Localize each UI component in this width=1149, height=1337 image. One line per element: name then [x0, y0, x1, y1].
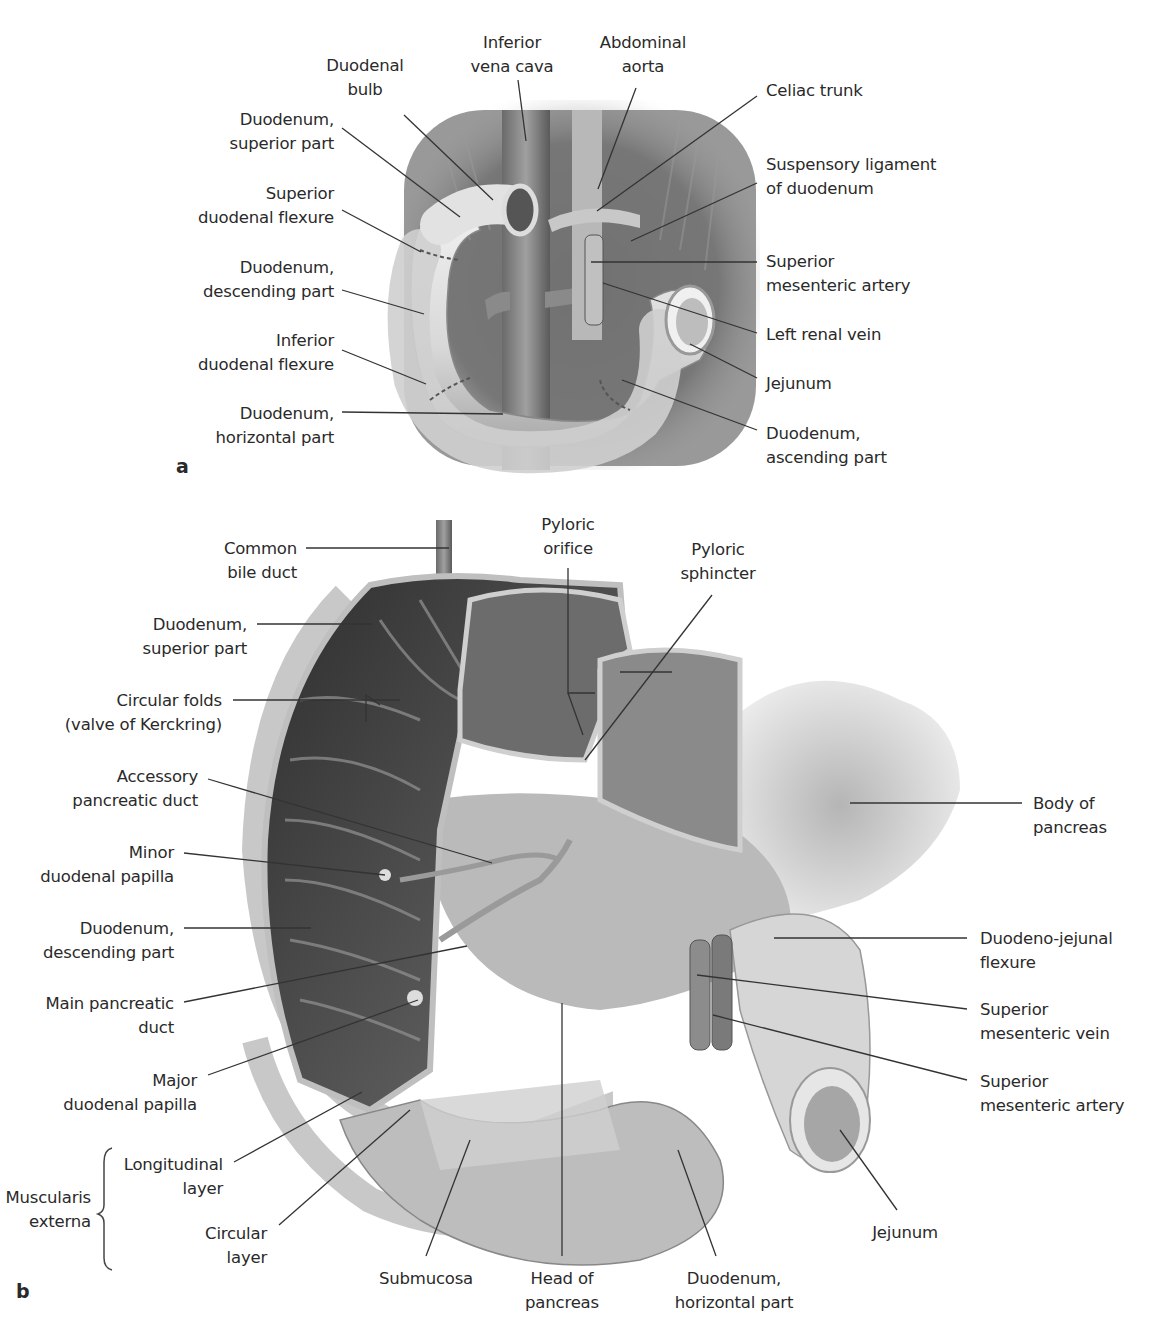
label-b-muscularis-externa: Muscularis externa — [6, 1186, 91, 1234]
label-b-duodenojejunal-flexure: Duodeno-jejunal flexure — [980, 927, 1113, 975]
label-b-common-bile-duct: Common bile duct — [224, 537, 297, 585]
label-a-left-renal-vein: Left renal vein — [766, 323, 881, 347]
label-b-jejunum: Jejunum — [850, 1221, 960, 1245]
label-b-pyloric-orifice: Pyloric orifice — [527, 513, 609, 561]
muscularis-brace — [98, 1148, 112, 1270]
label-b-duodenum-descending: Duodenum, descending part — [43, 917, 174, 965]
label-b-circular-layer: Circular layer — [205, 1222, 267, 1270]
label-b-minor-duodenal-papilla: Minor duodenal papilla — [40, 841, 174, 889]
label-b-major-duodenal-papilla: Major duodenal papilla — [63, 1069, 197, 1117]
label-a-celiac-trunk: Celiac trunk — [766, 79, 863, 103]
label-b-superior-mesenteric-vein: Superior mesenteric vein — [980, 998, 1110, 1046]
label-a-abdominal-aorta: Abdominal aorta — [578, 31, 708, 79]
label-a-suspensory-ligament: Suspensory ligament of duodenum — [766, 153, 936, 201]
label-a-duodenal-bulb: Duodenal bulb — [305, 54, 425, 102]
label-b-body-of-pancreas: Body of pancreas — [1033, 792, 1107, 840]
label-b-submucosa: Submucosa — [366, 1267, 486, 1291]
label-b-longitudinal-layer: Longitudinal layer — [124, 1153, 223, 1201]
label-b-duodenum-superior: Duodenum, superior part — [143, 613, 247, 661]
label-a-duodenum-descending: Duodenum, descending part — [203, 256, 334, 304]
label-b-pyloric-sphincter: Pyloric sphincter — [668, 538, 768, 586]
label-a-superior-mesenteric-artery: Superior mesenteric artery — [766, 250, 910, 298]
label-a-duodenum-superior: Duodenum, superior part — [230, 108, 334, 156]
label-a-duodenum-ascending: Duodenum, ascending part — [766, 422, 887, 470]
label-a-inferior-vena-cava: Inferior vena cava — [447, 31, 577, 79]
label-a-superior-duodenal-flexure: Superior duodenal flexure — [198, 182, 334, 230]
label-b-duodenum-horizontal: Duodenum, horizontal part — [664, 1267, 804, 1315]
panel-letter-b: b — [16, 1280, 30, 1302]
label-a-inferior-duodenal-flexure: Inferior duodenal flexure — [198, 329, 334, 377]
anatomy-artwork — [0, 0, 1149, 1337]
label-b-head-of-pancreas: Head of pancreas — [512, 1267, 612, 1315]
label-b-circular-folds: Circular folds (valve of Kerckring) — [65, 689, 222, 737]
label-b-superior-mesenteric-artery: Superior mesenteric artery — [980, 1070, 1124, 1118]
label-b-accessory-pancreatic-duct: Accessory pancreatic duct — [72, 765, 198, 813]
label-a-jejunum: Jejunum — [766, 372, 832, 396]
label-b-main-pancreatic-duct: Main pancreatic duct — [45, 992, 174, 1040]
panel-letter-a: a — [176, 455, 189, 477]
label-a-duodenum-horizontal: Duodenum, horizontal part — [216, 402, 334, 450]
panel-a-artwork — [400, 100, 760, 470]
